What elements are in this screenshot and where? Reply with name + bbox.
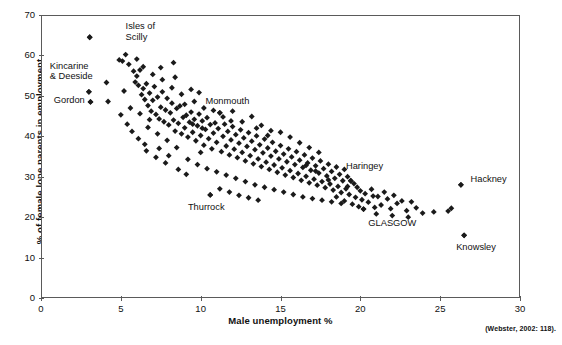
data-point: [279, 165, 285, 171]
data-point: [289, 154, 295, 160]
data-point: [340, 178, 346, 184]
data-point: [182, 125, 188, 131]
data-point: [145, 124, 151, 130]
data-point: [263, 159, 269, 165]
data-point: [298, 177, 304, 183]
data-point: [191, 99, 197, 105]
data-point: [219, 149, 225, 155]
data-point: [322, 185, 328, 191]
data-point: [252, 147, 258, 153]
data-point: [404, 208, 410, 214]
data-point: [169, 100, 175, 106]
plot-area: Isles of ScillyKincarine & DeesideGordon…: [41, 15, 520, 298]
data-point: [284, 159, 290, 165]
data-point: [140, 86, 146, 92]
data-point: [131, 68, 137, 74]
data-point: [265, 145, 271, 151]
data-point: [227, 189, 233, 195]
data-point: [329, 169, 335, 175]
data-point: [195, 162, 201, 168]
data-point: [179, 131, 185, 137]
data-point: [249, 114, 255, 120]
data-point: [196, 90, 202, 96]
data-point: [234, 155, 240, 161]
data-point: [287, 168, 293, 174]
scatter-chart-figure: % of female lone parents in employment 0…: [0, 0, 562, 345]
data-point: [215, 126, 221, 132]
data-point: [167, 110, 173, 116]
x-axis-title: Male unemployment %: [41, 315, 520, 326]
data-point: [214, 139, 220, 145]
data-point: [169, 85, 175, 91]
data-point: [370, 193, 376, 199]
data-point: [274, 169, 280, 175]
data-point: [391, 192, 397, 198]
data-point: [290, 175, 296, 181]
point-label: Kincarine & Deeside: [50, 61, 93, 82]
data-point: [258, 122, 264, 128]
data-point: [220, 114, 226, 120]
data-point: [143, 148, 149, 154]
data-point-annotated: [461, 232, 467, 238]
data-point: [306, 145, 312, 151]
data-point: [198, 133, 204, 139]
data-point: [292, 162, 298, 168]
data-point: [385, 196, 391, 202]
data-point: [231, 146, 237, 152]
data-point: [166, 153, 172, 159]
data-point: [333, 194, 339, 200]
data-point: [227, 152, 233, 158]
data-point: [204, 166, 210, 172]
data-point: [159, 77, 165, 83]
data-point: [196, 111, 202, 117]
data-point: [282, 172, 288, 178]
data-point: [123, 52, 129, 58]
data-point: [258, 164, 264, 170]
x-tick-label: 30: [505, 304, 535, 314]
data-point: [321, 166, 327, 172]
data-point: [134, 56, 140, 62]
data-point: [156, 116, 162, 122]
data-point: [171, 117, 177, 123]
data-point: [244, 143, 250, 149]
data-point: [319, 197, 325, 203]
x-tick-label: 5: [106, 304, 136, 314]
data-point: [185, 156, 191, 162]
data-point: [246, 195, 252, 201]
data-point: [172, 74, 178, 80]
data-point: [260, 150, 266, 156]
data-point: [153, 112, 159, 118]
data-point: [254, 133, 260, 139]
point-label: GLASGOW: [368, 218, 416, 229]
x-tick-label: 25: [425, 304, 455, 314]
data-point: [158, 65, 164, 71]
data-point: [332, 175, 338, 181]
data-point: [268, 153, 274, 159]
data-point: [297, 140, 303, 146]
data-point: [310, 196, 316, 202]
data-point: [333, 164, 339, 170]
data-point: [346, 192, 352, 198]
data-point-markers: [41, 15, 520, 298]
data-point: [255, 156, 261, 162]
data-point: [124, 121, 130, 127]
data-point: [378, 202, 384, 208]
data-point: [163, 107, 169, 113]
data-point: [148, 108, 154, 114]
data-point: [164, 137, 170, 143]
data-point: [147, 117, 153, 123]
data-point: [134, 73, 140, 79]
data-point: [171, 60, 177, 66]
data-point: [369, 186, 375, 192]
data-point: [201, 142, 207, 148]
data-point: [356, 204, 362, 210]
data-point: [207, 122, 213, 128]
data-point: [318, 158, 324, 164]
data-point: [249, 138, 255, 144]
data-point: [420, 210, 426, 216]
data-point: [278, 143, 284, 149]
data-point: [314, 182, 320, 188]
data-point: [159, 89, 165, 95]
data-point: [135, 136, 141, 142]
data-point-annotated: [88, 99, 94, 105]
